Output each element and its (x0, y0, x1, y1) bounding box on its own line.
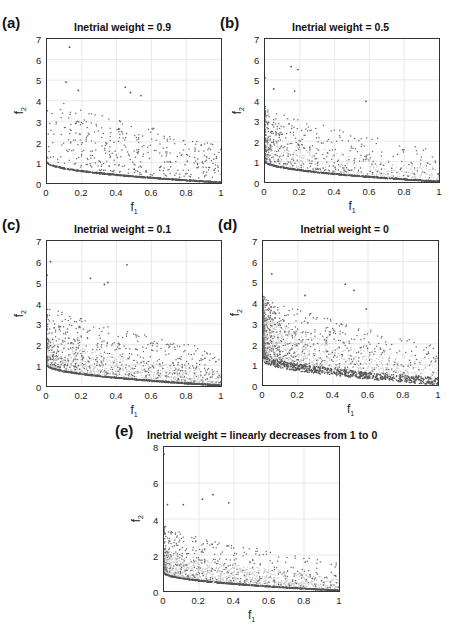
y-tick-label: 0 (153, 587, 158, 598)
panel-label: (e) (115, 422, 133, 439)
x-tick-label: 0.6 (144, 390, 157, 401)
x-tick-label: 0.2 (74, 187, 87, 198)
y-tick-label: 5 (36, 75, 41, 86)
y-axis-label: f2 (228, 309, 243, 316)
x-tick-label: 0.4 (227, 595, 240, 606)
scatter-plot (164, 447, 340, 592)
y-tick-label: 1 (36, 361, 41, 372)
y-tick-label: 2 (36, 137, 41, 148)
panel-title: Inetrial weight = 0.9 (74, 21, 171, 33)
y-axis-label-text: f (129, 519, 143, 522)
y-tick-label: 5 (254, 75, 259, 86)
panel-label: (a) (2, 14, 20, 31)
y-tick-label: 2 (254, 136, 259, 147)
x-tick-label: 0.2 (74, 390, 87, 401)
x-tick-label: 0 (160, 595, 165, 606)
y-axis-label: f2 (12, 310, 27, 317)
scatter-plot (47, 241, 222, 387)
scatter-plot (265, 39, 440, 183)
scatter-plot (47, 39, 222, 184)
x-tick-label: 1 (436, 186, 441, 197)
x-tick-label: 0 (43, 187, 48, 198)
y-tick-label: 6 (153, 478, 158, 489)
y-tick-label: 6 (36, 54, 41, 65)
y-tick-label: 3 (36, 319, 41, 330)
x-tick-label: 0.8 (397, 186, 410, 197)
x-tick-label: 0.4 (109, 390, 122, 401)
y-tick-label: 6 (254, 54, 259, 65)
x-tick-label: 0.6 (262, 595, 275, 606)
y-tick-label: 1 (254, 157, 259, 168)
x-tick-label: 0 (261, 186, 266, 197)
x-tick-label: 0.8 (396, 389, 409, 400)
y-axis-label-sub: 2 (20, 310, 27, 314)
y-tick-label: 6 (252, 256, 257, 267)
plot-area (46, 38, 222, 184)
panel-label: (b) (220, 14, 239, 31)
y-tick-label: 4 (36, 298, 41, 309)
y-tick-label: 5 (252, 277, 257, 288)
plot-area (264, 38, 440, 183)
plot-area (46, 240, 222, 387)
x-axis-label-sub: 1 (352, 207, 356, 214)
x-axis-label-sub: 1 (251, 616, 255, 623)
y-tick-label: 3 (254, 116, 259, 127)
y-tick-label: 5 (36, 277, 41, 288)
y-axis-label-sub: 2 (20, 107, 27, 111)
panel-title: Inetrial weight = 0.5 (292, 21, 389, 33)
panel-label: (c) (2, 216, 20, 233)
x-tick-label: 0.2 (292, 186, 305, 197)
y-tick-label: 2 (252, 339, 257, 350)
scatter-plot (263, 241, 439, 386)
y-tick-label: 4 (153, 514, 158, 525)
panel-title: Inetrial weight = 0.1 (74, 223, 171, 235)
x-tick-label: 1 (218, 390, 223, 401)
plot-area (163, 446, 340, 592)
y-tick-label: 7 (36, 34, 41, 45)
x-tick-label: 0.4 (327, 186, 340, 197)
y-tick-label: 0 (254, 178, 259, 189)
y-tick-label: 2 (153, 550, 158, 561)
y-axis-label: f2 (12, 107, 27, 114)
x-tick-label: 1 (218, 187, 223, 198)
y-tick-label: 0 (36, 179, 41, 190)
x-axis-label: f1 (348, 199, 355, 214)
x-tick-label: 1 (435, 389, 440, 400)
x-axis-label-sub: 1 (350, 410, 354, 417)
x-tick-label: 0.2 (291, 389, 304, 400)
x-axis-label-sub: 1 (134, 208, 138, 215)
x-tick-label: 0 (43, 390, 48, 401)
x-tick-label: 0.2 (192, 595, 205, 606)
x-tick-label: 0 (259, 389, 264, 400)
panel-title: Inetrial weight = linearly decreases fro… (147, 429, 377, 441)
x-axis-label-sub: 1 (134, 411, 138, 418)
y-tick-label: 6 (36, 256, 41, 267)
plot-area (262, 240, 439, 386)
y-tick-label: 7 (36, 236, 41, 247)
y-tick-label: 3 (252, 318, 257, 329)
x-tick-label: 0.6 (144, 187, 157, 198)
x-tick-label: 0.4 (109, 187, 122, 198)
y-tick-label: 2 (36, 340, 41, 351)
y-tick-label: 7 (254, 34, 259, 45)
x-axis-label: f1 (347, 402, 354, 417)
x-axis-label: f1 (130, 200, 137, 215)
y-tick-label: 0 (252, 381, 257, 392)
x-tick-label: 0.8 (179, 187, 192, 198)
y-axis-label: f2 (230, 107, 245, 114)
x-tick-label: 0.4 (326, 389, 339, 400)
y-axis-label: f2 (129, 515, 144, 522)
y-axis-label-sub: 2 (238, 107, 245, 111)
x-tick-label: 1 (336, 595, 341, 606)
x-axis-label: f1 (248, 608, 255, 623)
y-axis-label-sub: 2 (236, 309, 243, 313)
y-tick-label: 1 (252, 360, 257, 371)
y-tick-label: 0 (36, 382, 41, 393)
x-tick-label: 0.8 (297, 595, 310, 606)
y-tick-label: 8 (153, 442, 158, 453)
x-tick-label: 0.6 (361, 389, 374, 400)
y-axis-label-text: f (12, 111, 26, 114)
x-tick-label: 0.6 (362, 186, 375, 197)
y-axis-label-text: f (228, 313, 242, 316)
y-tick-label: 7 (252, 236, 257, 247)
